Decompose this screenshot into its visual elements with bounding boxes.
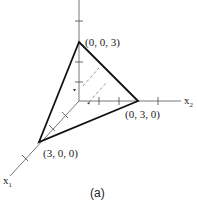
figure-caption: (a)	[90, 186, 105, 200]
x1-axis	[10, 101, 79, 176]
dashed-line-lower	[89, 82, 107, 102]
vertex-label-y: (0, 3, 0)	[125, 108, 160, 121]
vertex-label-x: (3, 0, 0)	[43, 147, 78, 160]
dashed-line-upper	[83, 68, 99, 86]
simplex-triangle	[39, 42, 138, 142]
simplex-diagram: (0, 0, 3) (0, 3, 0) (3, 0, 0) x2 x1 (a)	[0, 0, 197, 201]
arrow-marker-left	[73, 89, 76, 92]
x1-axis-label: x1	[3, 174, 13, 189]
arrow-marker-bottom	[87, 102, 90, 105]
x2-axis-label: x2	[184, 94, 194, 109]
vertex-label-z: (0, 0, 3)	[85, 36, 120, 49]
